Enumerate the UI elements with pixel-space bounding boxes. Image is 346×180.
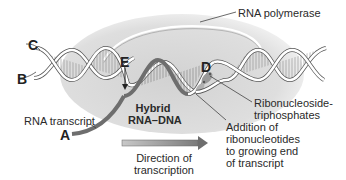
label-letter-e: E bbox=[120, 55, 129, 69]
label-hybrid-rna-dna: Hybrid RNA–DNA bbox=[128, 102, 178, 126]
direction-line-1: Direction of bbox=[126, 152, 202, 164]
hybrid-line-2: RNA–DNA bbox=[128, 114, 178, 126]
label-addition-of-ribonucleotides: Addition of ribonucleotides to growing e… bbox=[226, 121, 300, 169]
label-letter-c: C bbox=[28, 38, 38, 52]
label-rna-transcript: RNA transcript bbox=[24, 115, 95, 127]
label-letter-b: B bbox=[17, 72, 27, 86]
label-ribonucleoside-triphosphates: Ribonucleoside- triphosphates bbox=[254, 97, 333, 121]
ntp-line-2: triphosphates bbox=[254, 109, 333, 121]
label-letter-a: A bbox=[60, 128, 70, 142]
addition-line-2: ribonucleotides bbox=[226, 133, 300, 145]
direction-line-2: transcription bbox=[126, 164, 202, 176]
label-rna-polymerase: RNA polymerase bbox=[238, 7, 321, 19]
ntp-line-1: Ribonucleoside- bbox=[254, 97, 333, 109]
addition-line-4: of transcript bbox=[226, 157, 300, 169]
label-direction-of-transcription: Direction of transcription bbox=[126, 152, 202, 176]
addition-line-1: Addition of bbox=[226, 121, 300, 133]
direction-arrow-icon bbox=[122, 136, 208, 150]
label-letter-d: D bbox=[201, 60, 211, 74]
addition-line-3: to growing end bbox=[226, 145, 300, 157]
hybrid-line-1: Hybrid bbox=[128, 102, 178, 114]
